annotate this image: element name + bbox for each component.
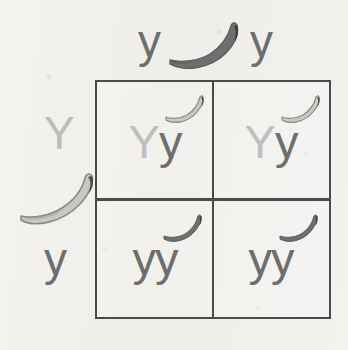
left-parent-allele-2: y (44, 236, 67, 282)
allele-recessive: y (159, 114, 182, 167)
allele-dominant: Y (245, 114, 275, 167)
top-parent-banana-icon (166, 20, 248, 72)
punnett-grid: Yy Yy (95, 80, 331, 319)
left-parent-allele-1: Y (44, 110, 75, 156)
genotype-label: Yy (245, 117, 298, 164)
allele-recessive: y (271, 232, 294, 285)
genotype-label: yy (249, 235, 294, 282)
allele-recessive: y (275, 114, 298, 167)
allele-recessive: y (155, 232, 178, 285)
left-parent-banana-icon (18, 172, 100, 228)
allele-recessive: y (133, 232, 156, 285)
genotype-label: yy (133, 235, 178, 282)
punnett-cell-bottom-right[interactable]: yy (213, 200, 329, 318)
punnett-cell-bottom-left[interactable]: yy (97, 200, 213, 318)
punnett-cell-top-right[interactable]: Yy (213, 82, 329, 200)
allele-recessive: y (249, 232, 272, 285)
punnett-square-diagram: y y Y y (0, 0, 348, 350)
punnett-cell-top-left[interactable]: Yy (97, 82, 213, 200)
genotype-label: Yy (129, 117, 182, 164)
allele-dominant: Y (129, 114, 159, 167)
top-parent-allele-1: y (138, 18, 161, 64)
top-parent-allele-2: y (250, 18, 273, 64)
